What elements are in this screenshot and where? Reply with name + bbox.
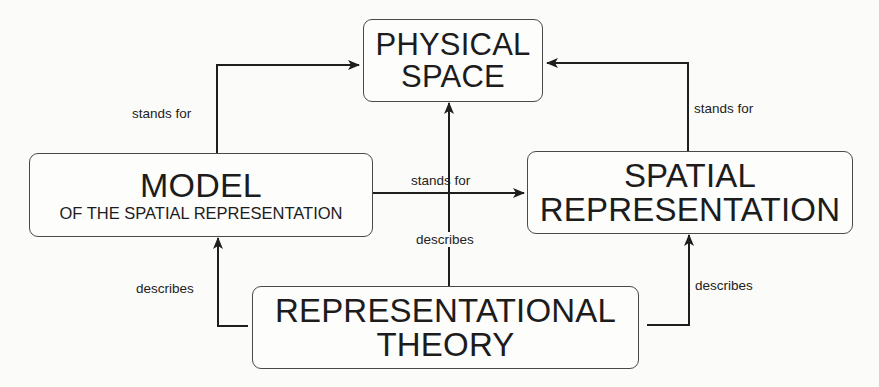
- node-physical-space: PHYSICAL SPACE: [363, 19, 543, 102]
- node-physical-line1: PHYSICAL: [376, 29, 531, 61]
- edge-theory-to-spatial: [647, 235, 689, 325]
- label-theory-to-spatial: describes: [695, 278, 753, 293]
- node-spatial-line1: SPATIAL: [624, 159, 756, 193]
- edge-spatial-to-physical: [547, 63, 688, 151]
- node-representational-theory: REPRESENTATIONAL THEORY: [252, 286, 639, 369]
- node-spatial-line2: REPRESENTATION: [540, 193, 840, 227]
- label-theory-to-model: describes: [136, 281, 194, 296]
- node-theory-line2: THEORY: [376, 328, 514, 362]
- edge-model-to-physical: [217, 65, 359, 153]
- node-spatial-representation: SPATIAL REPRESENTATION: [527, 151, 853, 234]
- label-theory-to-physical: describes: [414, 232, 476, 247]
- node-physical-line2: SPACE: [401, 61, 505, 93]
- label-model-to-spatial: stands for: [411, 173, 470, 188]
- node-model-subtitle: OF THE SPATIAL REPRESENTATION: [60, 204, 343, 224]
- label-spatial-to-physical: stands for: [694, 101, 753, 116]
- node-model-title: MODEL: [140, 168, 262, 203]
- node-model: MODEL OF THE SPATIAL REPRESENTATION: [29, 153, 373, 237]
- edge-theory-to-model: [218, 238, 248, 326]
- node-theory-line1: REPRESENTATIONAL: [275, 294, 616, 328]
- label-model-to-physical: stands for: [132, 106, 191, 121]
